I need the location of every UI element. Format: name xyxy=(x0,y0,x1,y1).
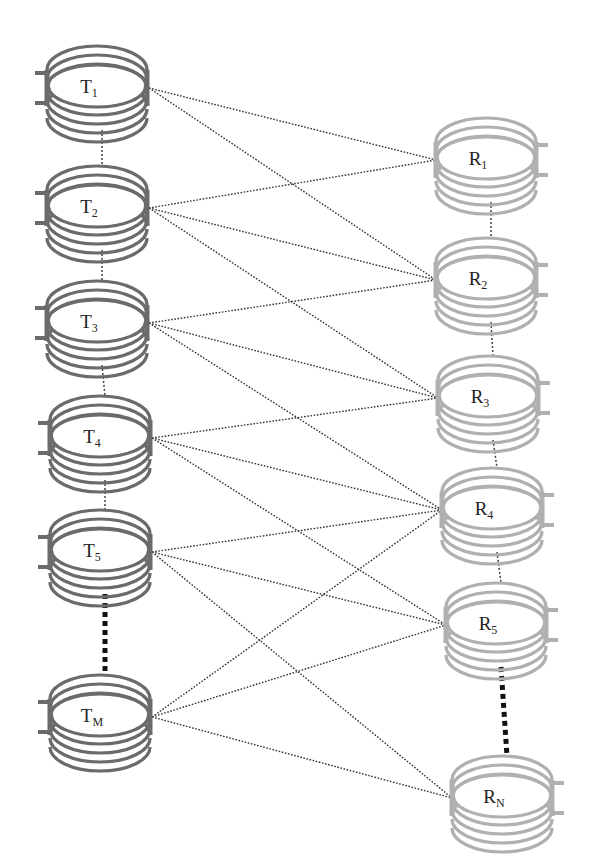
coil-array-diagram: T1T2T3T4T5TM R1R2R3R4R5RN xyxy=(0,0,597,863)
tx-coil-t1: T1 xyxy=(35,46,147,142)
rx-coil-r1: R1 xyxy=(436,118,548,214)
coupling-link-t5-r4 xyxy=(152,510,442,552)
rx-coil-r5: R5 xyxy=(446,583,558,679)
coupling-link-t4-r5 xyxy=(152,438,446,625)
tx-coil-t2: T2 xyxy=(35,166,147,262)
receiver-coils: R1R2R3R4R5RN xyxy=(436,118,564,852)
rx-coil-r2: R2 xyxy=(436,238,548,334)
coupling-link-tm-rn xyxy=(152,717,452,798)
coupling-link-tm-r5 xyxy=(152,625,446,717)
coupling-link-t2-r2 xyxy=(149,208,436,280)
rx-coil-rn: RN xyxy=(452,756,564,852)
coupling-link-t4-r4 xyxy=(152,438,442,510)
chain-connector xyxy=(497,552,501,583)
coupling-link-t4-r3 xyxy=(152,398,438,438)
chain-connector xyxy=(491,322,493,356)
coupling-links xyxy=(149,88,452,798)
tx-coil-t4: T4 xyxy=(38,396,150,492)
coupling-link-t1-r1 xyxy=(149,88,436,160)
coupling-link-t2-r1 xyxy=(149,160,436,208)
coupling-link-t2-r3 xyxy=(149,208,438,398)
coupling-link-t3-r4 xyxy=(149,323,442,510)
rx-coil-r3: R3 xyxy=(438,356,550,452)
transmitter-coils: T1T2T3T4T5TM xyxy=(35,46,150,771)
coupling-link-t3-r2 xyxy=(149,280,436,323)
tx-coil-t5: T5 xyxy=(38,510,150,606)
coupling-link-t5-r5 xyxy=(152,552,446,625)
rx-coil-r4: R4 xyxy=(442,468,554,564)
coupling-link-t3-r3 xyxy=(149,323,438,398)
tx-coil-t3: T3 xyxy=(35,281,147,377)
tx-coil-tm: TM xyxy=(38,675,150,771)
chain-connector xyxy=(102,365,105,396)
